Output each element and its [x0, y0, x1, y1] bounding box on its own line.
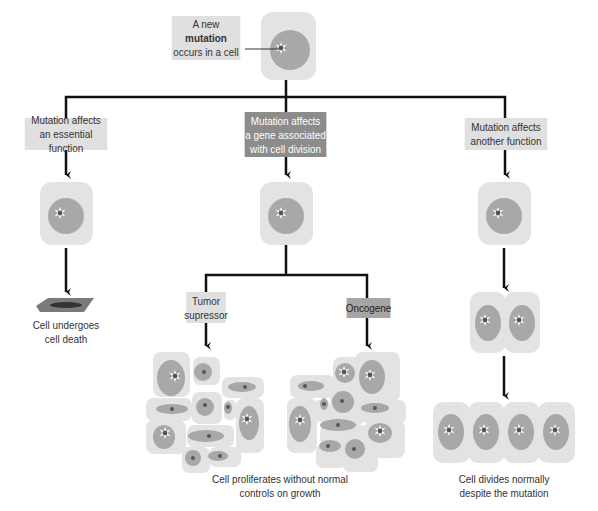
caption-line: Cell undergoes — [23, 318, 109, 332]
proliferation-caption: Cell proliferates without normal control… — [194, 472, 366, 500]
label-line: Mutation affects — [251, 114, 321, 128]
essential-function-label: Mutation affects an essential function — [25, 118, 108, 150]
four-cells — [433, 402, 575, 463]
label-line: supressor — [184, 308, 227, 322]
caption-line: Cell proliferates without normal — [194, 472, 366, 486]
start-label-bold: mutation — [185, 32, 227, 44]
split-connector — [206, 245, 367, 298]
label-line: Mutation affects — [471, 120, 541, 134]
dead-cell — [36, 298, 94, 312]
label-line: a gene associated — [245, 128, 325, 142]
caption-line: cell death — [23, 332, 109, 346]
other-function-label: Mutation affects another function — [465, 118, 548, 150]
normal-division-caption: Cell divides normally despite the mutati… — [452, 472, 555, 500]
middle-cell — [260, 182, 313, 245]
start-label-prefix: A new — [193, 18, 220, 30]
cell-division-gene-label: Mutation affects a gene associated with … — [245, 112, 327, 157]
label-line: with cell division — [250, 142, 321, 156]
left-cell — [40, 182, 93, 245]
caption-line: Cell divides normally — [452, 472, 555, 486]
label-line: an essential function — [25, 127, 108, 155]
start-label: A new mutation occurs in a cell — [172, 16, 241, 60]
dividing-cells — [470, 292, 540, 353]
original-cell — [261, 12, 316, 80]
oncogene-label: Oncogene — [347, 298, 391, 318]
label-line: Oncogene — [346, 301, 392, 315]
start-label-suffix: occurs in a cell — [173, 45, 238, 59]
flow-diagram — [0, 0, 598, 511]
label-line: another function — [471, 134, 542, 148]
cell-death-caption: Cell undergoes cell death — [23, 318, 109, 346]
caption-line: despite the mutation — [452, 486, 555, 500]
tumor-suppressor-label: Tumor supressor — [186, 292, 226, 323]
caption-line: controls on growth — [194, 486, 366, 500]
right-cell — [478, 182, 531, 245]
label-line: Mutation affects — [31, 113, 101, 127]
label-line: Tumor — [192, 294, 220, 308]
